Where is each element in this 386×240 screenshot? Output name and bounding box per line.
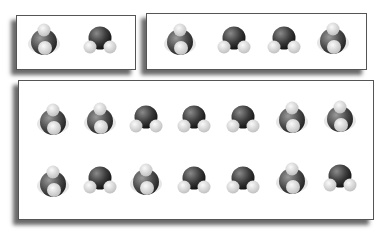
water-molecule-icon bbox=[128, 162, 164, 198]
water-molecule-icon bbox=[176, 101, 212, 137]
water-molecule-icon bbox=[128, 101, 164, 137]
water-molecule-icon bbox=[26, 22, 62, 58]
water-molecule-icon bbox=[274, 161, 310, 197]
water-molecule-icon bbox=[322, 99, 358, 135]
water-molecule-icon bbox=[82, 22, 118, 58]
water-molecule-icon bbox=[162, 22, 198, 58]
water-molecule-icon bbox=[225, 162, 261, 198]
water-molecule-icon bbox=[266, 22, 302, 58]
water-molecule-icon bbox=[274, 100, 310, 136]
water-molecule-icon bbox=[315, 21, 351, 57]
water-molecule-icon bbox=[176, 162, 212, 198]
water-molecule-icon bbox=[35, 164, 71, 200]
water-molecule-icon bbox=[216, 22, 252, 58]
water-molecule-icon bbox=[322, 160, 358, 196]
water-molecule-icon bbox=[35, 102, 71, 138]
water-molecule-icon bbox=[82, 162, 118, 198]
water-molecule-icon bbox=[82, 101, 118, 137]
water-molecule-icon bbox=[225, 101, 261, 137]
